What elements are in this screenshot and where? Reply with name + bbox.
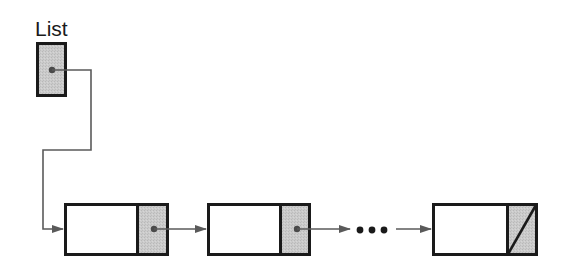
head-pointer-label: List (35, 17, 68, 40)
node-data-field (434, 205, 508, 255)
list-node (209, 205, 310, 255)
ellipsis-icon (357, 227, 388, 234)
node-data-field (209, 205, 281, 255)
list-node-last (434, 205, 537, 255)
node-data-field (66, 205, 138, 255)
linked-list-diagram: List (0, 0, 565, 271)
list-node (66, 205, 168, 255)
